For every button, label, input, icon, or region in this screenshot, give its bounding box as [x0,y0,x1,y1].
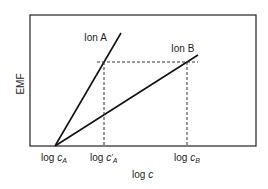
emf-diagram: Ion A Ion B EMF log cA log c′A log cB lo… [0,0,268,189]
tick-log-cb: log cB [174,152,200,164]
ion-b-label: Ion B [171,43,195,54]
plot-frame [30,15,256,146]
tick-log-ca-prime: log c′A [90,152,118,164]
ion-a-label: Ion A [84,32,107,43]
ion-a-line [55,33,121,146]
x-axis-label: log c [132,169,153,180]
ion-b-line [55,55,198,146]
y-axis-label: EMF [15,73,26,94]
tick-log-ca: log cA [41,152,67,164]
